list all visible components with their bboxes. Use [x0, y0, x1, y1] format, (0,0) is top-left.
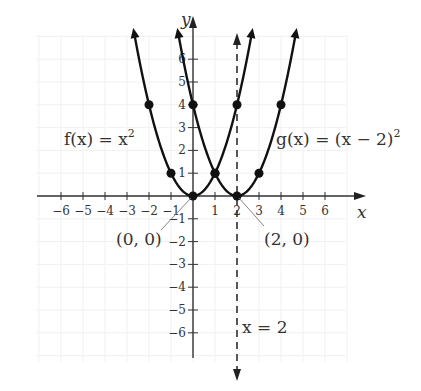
- axes: [37, 16, 366, 358]
- curve-arrow-icon: [131, 28, 140, 39]
- axis-of-symmetry-label: x = 2: [242, 317, 287, 337]
- curve-arrow-icon: [247, 28, 256, 39]
- y-tick-label: −4: [168, 280, 186, 294]
- x-tick-label: −5: [74, 204, 92, 218]
- y-tick-label: −3: [168, 257, 186, 271]
- coordinate-plane: −6−5−4−3−2−1123456654321−1−2−3−4−5−6 y x…: [0, 0, 421, 391]
- data-point: [277, 100, 286, 109]
- y-tick-label: 2: [178, 143, 186, 157]
- x-tick-label: −6: [52, 204, 70, 218]
- data-point: [255, 169, 264, 178]
- x-tick-label: 3: [255, 204, 263, 218]
- x-axis-label: x: [357, 202, 367, 222]
- data-point: [211, 169, 220, 178]
- y-tick-label: 5: [178, 75, 186, 89]
- x-tick-label: 6: [321, 204, 329, 218]
- curve-arrow-icon: [175, 28, 184, 39]
- y-tick-label: 1: [178, 166, 186, 180]
- graph-figure: −6−5−4−3−2−1123456654321−1−2−3−4−5−6 y x…: [0, 0, 421, 391]
- y-tick-label: −6: [168, 326, 186, 340]
- vertex-f-label: (0, 0): [116, 229, 162, 249]
- x-axis-arrow-icon: [354, 192, 366, 200]
- data-point: [167, 169, 176, 178]
- x-tick-label: −2: [140, 204, 158, 218]
- x-tick-label: −4: [96, 204, 114, 218]
- x-tick-label: 4: [277, 204, 285, 218]
- data-point: [233, 100, 242, 109]
- arrow-up-icon: [233, 33, 241, 45]
- f-function-label: f(x) = x2: [64, 127, 135, 149]
- data-point: [189, 100, 198, 109]
- curve-arrow-icon: [291, 28, 300, 39]
- arrow-down-icon: [233, 369, 241, 381]
- y-axis-label: y: [180, 9, 191, 29]
- data-point: [145, 100, 154, 109]
- vertex-g-label: (2, 0): [264, 229, 310, 249]
- x-tick-label: −3: [118, 204, 136, 218]
- y-tick-label: 3: [178, 121, 186, 135]
- x-tick-label: 5: [299, 204, 307, 218]
- y-tick-label: 4: [178, 98, 186, 112]
- g-function-label: g(x) = (x − 2)2: [276, 127, 401, 149]
- x-tick-label: 1: [211, 204, 219, 218]
- y-tick-label: −2: [168, 235, 186, 249]
- y-tick-label: −5: [168, 303, 186, 317]
